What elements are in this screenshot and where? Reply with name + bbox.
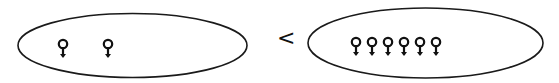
female-sign-icon [384,38,392,56]
female-sign-icon [352,38,360,56]
left-group-ellipse [18,14,247,78]
female-sign-icon [368,38,376,56]
right-group-symbols [352,38,440,56]
female-sign-icon [104,40,112,58]
female-sign-icon [59,40,67,58]
female-sign-icon [432,38,440,56]
female-sign-icon [416,38,424,56]
left-group-symbols [59,40,112,58]
female-sign-icon [400,38,408,56]
right-group-ellipse [308,8,543,78]
less-than-sign: < [277,27,295,49]
